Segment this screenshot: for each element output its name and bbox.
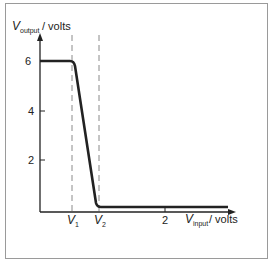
x-axis-label: V input / volts bbox=[185, 212, 238, 228]
y-axis-arrow-icon bbox=[37, 33, 43, 41]
svg-text:output: output bbox=[20, 27, 40, 35]
y-axis-label: V output / volts bbox=[12, 19, 71, 35]
svg-text:input: input bbox=[193, 220, 208, 228]
svg-text:/ volts: / volts bbox=[42, 20, 71, 32]
y-tick-label-6: 6 bbox=[25, 55, 31, 67]
v2-label: V 2 bbox=[94, 213, 106, 228]
x-tick-label-2: 2 bbox=[162, 214, 168, 226]
svg-text:1: 1 bbox=[75, 221, 79, 228]
v1-label: V 1 bbox=[67, 213, 79, 228]
y-tick-label-4: 4 bbox=[28, 105, 34, 117]
chart: 6 4 2 2 V output / volts V input / volts… bbox=[0, 0, 275, 266]
y-tick-label-2: 2 bbox=[28, 154, 34, 166]
svg-text:2: 2 bbox=[102, 221, 106, 228]
svg-text:/ volts: / volts bbox=[209, 213, 238, 225]
transfer-curve bbox=[40, 61, 228, 207]
